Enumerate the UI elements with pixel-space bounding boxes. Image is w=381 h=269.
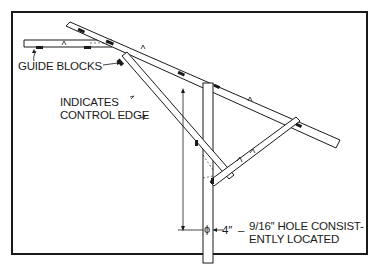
control-edge-label-line2: CONTROL EDGE — [60, 109, 149, 122]
guide-block-icon — [211, 178, 214, 184]
cross-brace — [210, 117, 300, 186]
hole-label-line1: 9/16″ HOLE CONSIST- — [249, 220, 364, 233]
hole-label-line2: ENTLY LOCATED — [249, 233, 364, 246]
hole-label: 9/16″ HOLE CONSIST- ENTLY LOCATED — [249, 220, 364, 246]
guide-block-icon — [195, 140, 198, 146]
control-edge-label: INDICATES CONTROL EDGE — [60, 96, 149, 122]
hole-symbol: ϕ — [204, 223, 210, 236]
vertical-post — [203, 83, 213, 263]
control-edge-label-line1: INDICATES — [60, 96, 149, 109]
guide-block-icon — [36, 46, 43, 49]
dimension-label: 4″ — [222, 224, 232, 237]
dimension-dash: – — [238, 224, 244, 237]
guide-block-icon — [84, 46, 91, 49]
guide-blocks-label: GUIDE BLOCKS — [18, 60, 102, 73]
